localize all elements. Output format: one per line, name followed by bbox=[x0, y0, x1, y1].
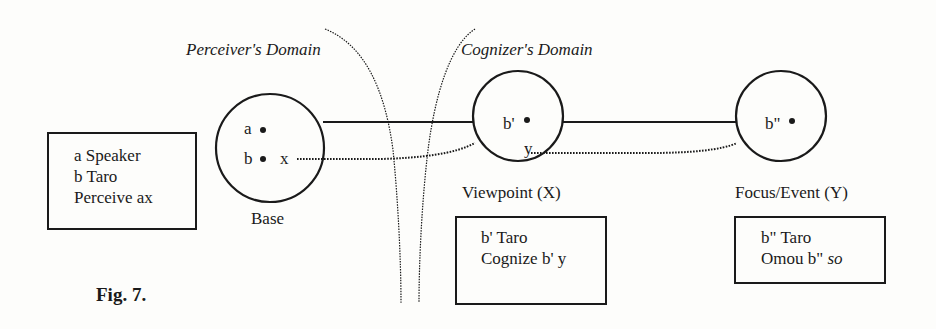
y-reference-dotted-line bbox=[531, 143, 737, 153]
base-var-x-label: x bbox=[280, 150, 289, 168]
viewpoint-circle bbox=[473, 71, 563, 161]
focus-point-label: b" bbox=[765, 115, 780, 133]
base-node-label: Base bbox=[251, 209, 284, 229]
focus-box-omou-text: Omou b" bbox=[761, 249, 827, 268]
viewpoint-point-dot bbox=[524, 117, 530, 123]
viewpoint-node-label: Viewpoint (X) bbox=[462, 183, 561, 203]
viewpoint-box-line-cognize: Cognize b' y bbox=[481, 248, 605, 269]
perceiver-domain-boundary bbox=[325, 29, 401, 303]
focus-box-line-omou: Omou b" so bbox=[761, 248, 884, 269]
viewpoint-description-box: b' Taro Cognize b' y bbox=[455, 216, 607, 305]
base-box-line-taro: b Taro bbox=[74, 166, 195, 187]
focus-point-dot bbox=[789, 118, 795, 124]
focus-node-label: Focus/Event (Y) bbox=[735, 183, 848, 203]
figure-caption: Fig. 7. bbox=[96, 285, 146, 305]
base-point-b-dot bbox=[260, 156, 266, 162]
viewpoint-point-label: b' bbox=[503, 115, 515, 133]
viewpoint-var-y-label: y bbox=[524, 140, 533, 158]
focus-box-line-taro: b" Taro bbox=[761, 227, 884, 248]
base-box-line-perceive: Perceive ax bbox=[74, 187, 195, 208]
base-point-a-dot bbox=[260, 127, 266, 133]
focus-description-box: b" Taro Omou b" so bbox=[734, 216, 886, 284]
base-point-b-label: b bbox=[244, 150, 253, 168]
focus-box-so-italic: so bbox=[827, 249, 842, 268]
base-point-a-label: a bbox=[244, 120, 252, 138]
base-box-line-speaker: a Speaker bbox=[74, 145, 195, 166]
cognizer-domain-label: Cognizer's Domain bbox=[461, 40, 593, 60]
base-circle bbox=[216, 94, 324, 202]
viewpoint-box-line-taro: b' Taro bbox=[481, 227, 605, 248]
perceiver-domain-label: Perceiver's Domain bbox=[186, 40, 321, 60]
focus-circle bbox=[736, 71, 826, 161]
base-description-box: a Speaker b Taro Perceive ax bbox=[47, 132, 197, 230]
